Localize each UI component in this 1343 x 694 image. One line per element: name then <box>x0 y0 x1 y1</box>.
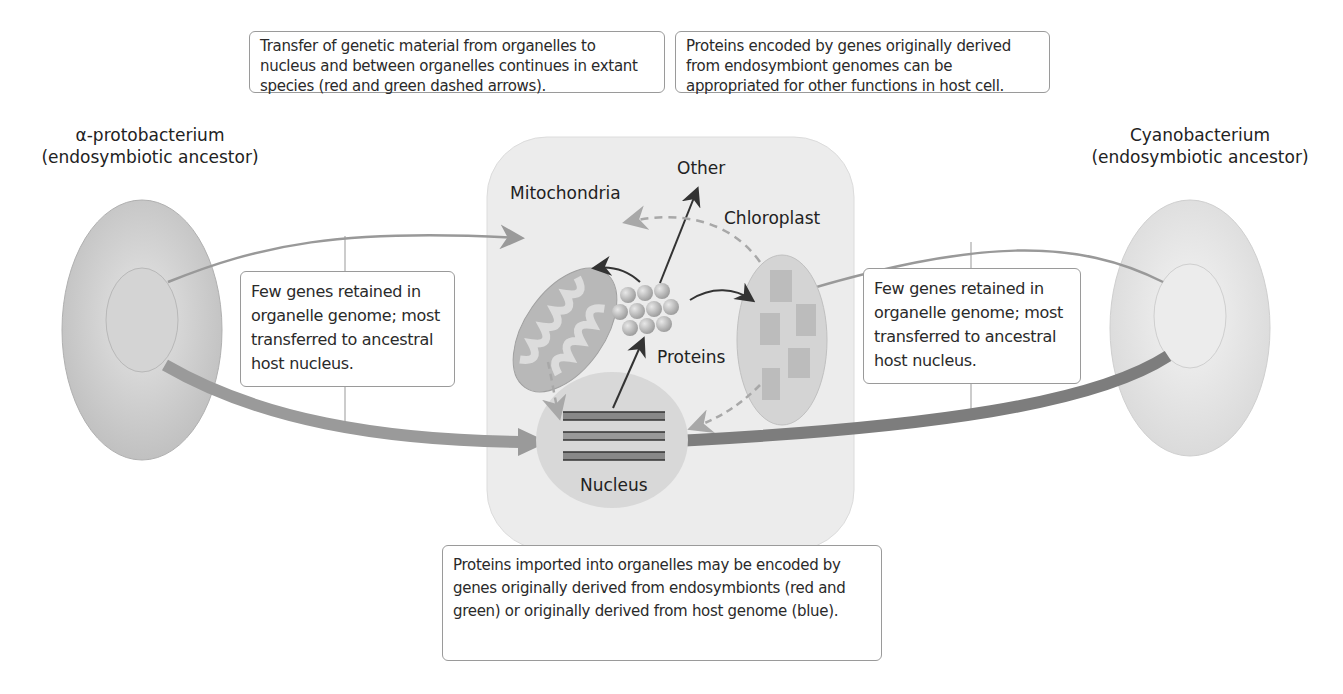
cyanobacterium-name: Cyanobacterium <box>1070 124 1330 146</box>
chloroplast-label: Chloroplast <box>724 208 820 228</box>
nucleus-label: Nucleus <box>580 475 648 495</box>
alpha-protobacterium-sub: (endosymbiotic ancestor) <box>20 146 280 168</box>
proteins-label: Proteins <box>657 347 725 367</box>
caption-top-left: Transfer of genetic material from organe… <box>249 31 665 93</box>
chloroplast-shape <box>737 255 827 425</box>
cyanobacterium-shape <box>1110 200 1270 456</box>
caption-bottom: Proteins imported into organelles may be… <box>442 545 882 661</box>
other-label: Other <box>677 158 725 178</box>
alpha-protobacterium-label: α-protobacterium (endosymbiotic ancestor… <box>20 124 280 168</box>
caption-top-right: Proteins encoded by genes originally der… <box>675 31 1050 93</box>
alpha-protobacterium-name: α-protobacterium <box>20 124 280 146</box>
mitochondria-label: Mitochondria <box>510 183 621 203</box>
caption-left-mid: Few genes retained in organelle genome; … <box>240 271 455 387</box>
cyanobacterium-label: Cyanobacterium (endosymbiotic ancestor) <box>1070 124 1330 168</box>
caption-right-mid: Few genes retained in organelle genome; … <box>863 268 1081 384</box>
alpha-protobacterium-shape <box>62 200 222 460</box>
dna-strands <box>563 412 665 460</box>
cyanobacterium-sub: (endosymbiotic ancestor) <box>1070 146 1330 168</box>
